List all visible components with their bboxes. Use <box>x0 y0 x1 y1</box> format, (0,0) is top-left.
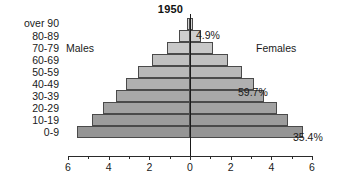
annotation-mid: 59.7% <box>238 86 268 98</box>
y-axis-label: 80-89 <box>0 30 62 42</box>
x-axis-minor-tick <box>210 156 211 159</box>
x-axis-tick-label: 4 <box>106 161 112 173</box>
x-axis-major-tick <box>109 156 110 160</box>
bar-males <box>138 66 190 78</box>
bar-males <box>126 78 190 90</box>
y-axis-label: 20-29 <box>0 102 62 114</box>
bar-males <box>77 126 190 138</box>
bar-females <box>190 102 277 114</box>
bar-females <box>190 42 213 54</box>
x-axis-major-tick <box>68 156 69 160</box>
x-axis-minor-tick <box>292 156 293 159</box>
x-axis-tick-label: 6 <box>65 161 71 173</box>
x-axis-minor-tick <box>129 156 130 159</box>
y-axis-label: 10-19 <box>0 114 62 126</box>
y-axis-category-labels: over 9080-8970-7960-6950-5940-4930-3920-… <box>0 18 62 138</box>
x-axis-major-tick <box>271 156 272 160</box>
bar-males <box>152 54 190 66</box>
y-axis-label: 30-39 <box>0 90 62 102</box>
y-axis-label: 70-79 <box>0 42 62 54</box>
x-axis-minor-tick <box>88 156 89 159</box>
bar-females <box>190 114 288 126</box>
x-axis-minor-tick <box>251 156 252 159</box>
population-pyramid-chart: 1950 over 9080-8970-7960-6950-5940-4930-… <box>0 0 345 181</box>
x-axis-major-tick <box>231 156 232 160</box>
bar-males <box>167 42 190 54</box>
x-axis-major-tick <box>312 156 313 160</box>
plot-area <box>68 18 312 156</box>
bar-males <box>179 30 190 42</box>
x-axis: 6420246 <box>68 156 312 157</box>
y-axis-label: 50-59 <box>0 66 62 78</box>
bar-males <box>103 102 190 114</box>
zero-axis-line <box>190 14 191 156</box>
x-axis-tick-label: 6 <box>309 161 315 173</box>
y-axis-label: over 90 <box>0 17 62 29</box>
annotation-top: 4.9% <box>196 29 220 41</box>
bar-females <box>190 54 228 66</box>
chart-title-text: 1950 <box>158 3 183 15</box>
x-axis-minor-tick <box>170 156 171 159</box>
caption-females: Females <box>256 42 296 54</box>
bar-males <box>116 90 190 102</box>
x-axis-tick-label: 4 <box>268 161 274 173</box>
x-axis-major-tick <box>190 156 191 160</box>
y-axis-label: 0-9 <box>0 126 62 138</box>
bar-females <box>190 126 303 138</box>
x-axis-tick-label: 2 <box>228 161 234 173</box>
y-axis-label: 40-49 <box>0 78 62 90</box>
x-axis-tick-label: 2 <box>146 161 152 173</box>
annotation-bottom: 35.4% <box>293 131 323 143</box>
y-axis-label: 60-69 <box>0 54 62 66</box>
bar-males <box>92 114 190 126</box>
x-axis-major-tick <box>149 156 150 160</box>
caption-males: Males <box>66 42 94 54</box>
bar-females <box>190 66 242 78</box>
x-axis-tick-label: 0 <box>187 161 193 173</box>
chart-title: 1950 <box>0 3 345 15</box>
